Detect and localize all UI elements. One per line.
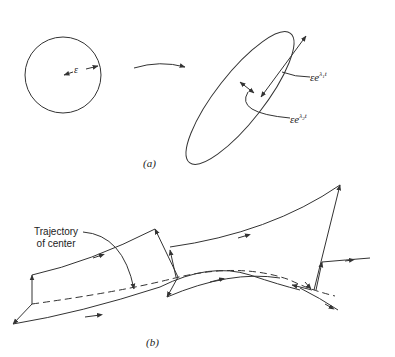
panel-b-caption: (b) xyxy=(146,336,159,348)
minor-axis-label-base: εe xyxy=(290,113,299,125)
minor-axis-label-tail: t xyxy=(305,112,307,120)
mapping-arrow xyxy=(134,64,185,68)
major-axis-label: εeλ1t xyxy=(310,70,327,83)
trajectory-label-line1: Trajectory xyxy=(34,226,78,238)
vector-mid-upper xyxy=(170,250,176,277)
radius-arrow-inner xyxy=(64,72,73,75)
diagram-canvas xyxy=(0,0,395,357)
vector-right-long xyxy=(314,185,340,290)
lower-trajectory xyxy=(13,271,300,324)
right-lower xyxy=(300,288,338,310)
initial-circle xyxy=(25,37,101,113)
minor-axis-arrow xyxy=(240,82,254,93)
minor-axis-label: εeλ2t xyxy=(290,112,307,125)
minor-axis-leader xyxy=(246,92,290,118)
major-axis-arrow xyxy=(261,36,306,97)
trajectory-label: Trajectory of center xyxy=(34,226,78,250)
upper-trajectory-2 xyxy=(170,185,340,247)
trajectory-label-line2: of center xyxy=(34,238,78,250)
panel-a-caption: (a) xyxy=(143,157,156,169)
major-axis-label-base: εe xyxy=(310,71,319,83)
circle-radius-label: ε xyxy=(74,64,78,75)
major-axis-leader xyxy=(282,72,310,77)
radius-arrow xyxy=(86,66,98,69)
right-horizontal xyxy=(322,258,370,262)
vector-right-short xyxy=(316,262,322,290)
deformed-ellipse xyxy=(171,19,310,178)
trajectory-leader xyxy=(83,232,134,289)
major-axis-label-tail: t xyxy=(325,70,327,78)
